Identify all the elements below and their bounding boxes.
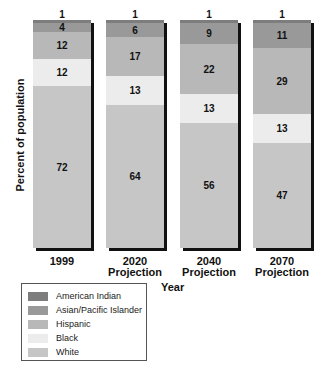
segment-asian-pacific-islander: 4: [33, 23, 91, 32]
legend-swatch: [28, 320, 48, 329]
segment-white: 72: [33, 86, 91, 248]
value-label: 9: [206, 28, 212, 39]
bar-2040: 9 22 13 56: [180, 20, 238, 248]
segment-white: 56: [180, 123, 238, 248]
segment-black: 13: [180, 94, 238, 123]
legend-swatch: [28, 292, 48, 301]
segment-hispanic: 17: [106, 37, 164, 76]
segment-hispanic: 22: [180, 44, 238, 94]
legend-swatch: [28, 306, 48, 315]
x-tick-2040: 2040 Projection: [169, 256, 249, 278]
segment-black: 13: [253, 114, 311, 143]
bar-2070-american-indian-label: 1: [253, 9, 311, 20]
value-label: 12: [56, 67, 67, 78]
legend-label: White: [56, 347, 79, 357]
segment-white: 64: [106, 105, 164, 248]
legend-swatch: [28, 334, 48, 343]
x-tick-line2: Projection: [169, 267, 249, 278]
legend-item-hispanic: Hispanic: [28, 318, 91, 330]
legend-label: American Indian: [56, 291, 121, 301]
legend-item-american-indian: American Indian: [28, 290, 121, 302]
value-label: 56: [203, 180, 214, 191]
segment-asian-pacific-islander: 11: [253, 23, 311, 48]
x-tick-line2: Projection: [95, 267, 175, 278]
segment-black: 13: [106, 76, 164, 105]
segment-hispanic: 12: [33, 32, 91, 59]
segment-black: 12: [33, 59, 91, 86]
segment-asian-pacific-islander: 9: [180, 23, 238, 44]
bar-1999: 4 12 12 72: [33, 20, 91, 248]
bar-2020: 6 17 13 64: [106, 20, 164, 248]
value-label: 64: [129, 171, 140, 182]
bar-1999-american-indian-label: 1: [33, 9, 91, 20]
bar-2070: 11 29 13 47: [253, 20, 311, 248]
value-label: 29: [276, 76, 287, 87]
x-tick-line2: Projection: [242, 267, 322, 278]
legend-label: Hispanic: [56, 319, 91, 329]
value-label: 13: [129, 85, 140, 96]
legend-swatch: [28, 348, 48, 357]
value-label: 13: [203, 103, 214, 114]
x-tick-2070: 2070 Projection: [242, 256, 322, 278]
value-label: 17: [129, 51, 140, 62]
segment-hispanic: 29: [253, 48, 311, 114]
legend: American Indian Asian/Pacific Islander H…: [21, 283, 147, 361]
value-label: 47: [276, 190, 287, 201]
x-tick-1999: 1999: [22, 256, 102, 267]
legend-item-asian-pacific-islander: Asian/Pacific Islander: [28, 304, 142, 316]
value-label: 11: [277, 30, 288, 41]
x-tick-line1: 1999: [22, 256, 102, 267]
value-label: 6: [132, 25, 138, 36]
value-label: 22: [203, 64, 214, 75]
segment-asian-pacific-islander: 6: [106, 23, 164, 37]
legend-item-white: White: [28, 346, 79, 358]
value-label: 72: [56, 162, 67, 173]
legend-item-black: Black: [28, 332, 78, 344]
legend-label: Asian/Pacific Islander: [56, 305, 142, 315]
bar-2020-american-indian-label: 1: [106, 9, 164, 20]
value-label: 12: [56, 40, 67, 51]
legend-label: Black: [56, 333, 78, 343]
segment-white: 47: [253, 143, 311, 248]
y-axis-label-text: Percent of population: [14, 78, 26, 191]
x-axis-title: Year: [161, 281, 184, 293]
x-tick-2020: 2020 Projection: [95, 256, 175, 278]
value-label: 13: [276, 123, 287, 134]
bar-2040-american-indian-label: 1: [180, 9, 238, 20]
